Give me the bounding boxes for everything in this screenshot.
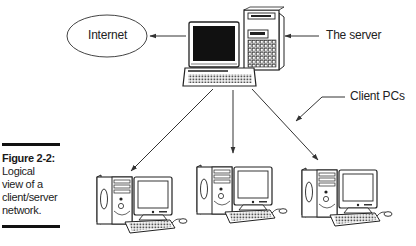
client-pc-3 bbox=[302, 168, 392, 226]
client-pc-icon bbox=[302, 168, 392, 226]
client-pc-2 bbox=[197, 165, 287, 223]
client-pc-icon bbox=[97, 175, 187, 233]
client-pc-1 bbox=[97, 175, 187, 233]
client-label-pointer bbox=[296, 97, 345, 121]
client-pcs-label: Client PCs bbox=[350, 89, 405, 103]
server-computer-icon bbox=[183, 7, 284, 86]
internet-label: Internet bbox=[88, 28, 127, 42]
client-pc-icon bbox=[197, 165, 287, 223]
arrow-server-to-client-1 bbox=[131, 89, 213, 171]
server-label: The server bbox=[326, 28, 381, 42]
arrow-server-to-client-3 bbox=[252, 89, 318, 160]
